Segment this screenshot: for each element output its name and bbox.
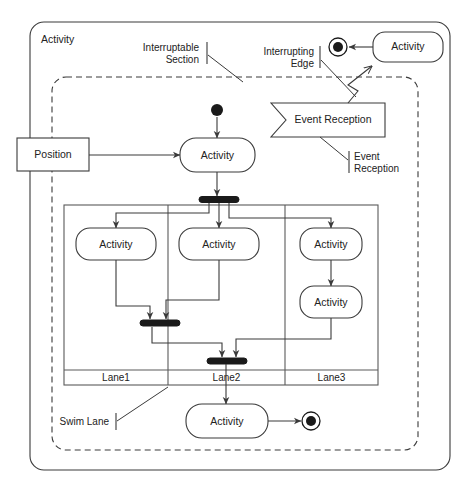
- annotation-swim-lane-leader: [117, 387, 168, 421]
- lane-label-2: Lane2: [213, 372, 241, 383]
- join-bar-left: [140, 320, 180, 326]
- activity-lane3-bottom-label: Activity: [314, 296, 348, 308]
- annotation-interrupting-edge-leader: [321, 60, 356, 97]
- activity-final-flow-label: Activity: [210, 415, 244, 427]
- edge-interrupting-zigzag: [348, 66, 372, 103]
- annotation-event-reception-line1: Event: [354, 151, 380, 162]
- lane-label-3: Lane3: [318, 372, 346, 383]
- annotation-interrupting-edge-line1: Interrupting: [263, 46, 314, 57]
- annotation-event-reception-leader: [320, 137, 348, 160]
- activity-interrupt-label: Activity: [391, 40, 425, 52]
- uml-activity-diagram: Activity Lane1 Lane2 Lane3 Activity Acti…: [0, 0, 472, 495]
- annotation-swim-lane-label: Swim Lane: [60, 416, 110, 427]
- event-reception-label: Event Reception: [294, 113, 371, 125]
- diagram-canvas: Activity Lane1 Lane2 Lane3 Activity Acti…: [0, 0, 472, 495]
- join-bar-center: [207, 358, 247, 364]
- object-node-position-label: Position: [34, 148, 72, 160]
- final-node-bottom-dot: [306, 416, 316, 426]
- lane-label-1: Lane1: [102, 372, 130, 383]
- annotation-interrupting-edge-line2: Edge: [291, 58, 315, 69]
- annotation-interruptable-section-leader: [208, 55, 243, 82]
- annotation-event-reception-line2: Reception: [354, 163, 399, 174]
- annotation-interruptable-section-line1: Interruptable: [143, 42, 200, 53]
- activity-lane3-top-label: Activity: [314, 238, 348, 250]
- fork-bar-top: [199, 197, 239, 203]
- activity-lane2-label: Activity: [202, 238, 236, 250]
- activity-frame-label: Activity: [41, 33, 75, 45]
- annotation-interruptable-section-line2: Section: [166, 54, 199, 65]
- initial-node: [211, 104, 223, 116]
- activity-lane1-label: Activity: [99, 238, 133, 250]
- activity-main-label: Activity: [201, 149, 235, 161]
- final-node-interrupt-dot: [333, 42, 343, 52]
